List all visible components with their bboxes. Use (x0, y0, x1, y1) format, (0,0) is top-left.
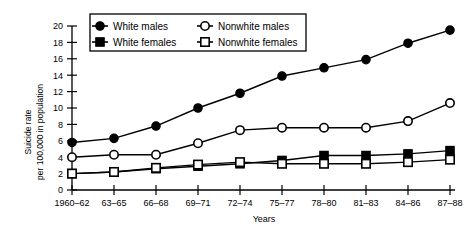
y-tick-label: 6 (58, 136, 63, 146)
x-axis-ticks: 1960–6263–6566–6869–7172–7475–7778–8081–… (54, 185, 462, 208)
legend-label: Nonwhite females (218, 37, 297, 48)
data-point (278, 123, 286, 131)
y-axis-label-line1: Suicide rate (23, 109, 33, 154)
x-tick-label: 75–77 (269, 198, 294, 208)
data-point (68, 169, 76, 177)
legend-label: White females (113, 37, 176, 48)
legend: White malesNonwhite malesWhite femalesNo… (90, 14, 306, 51)
data-point (320, 64, 328, 72)
data-point (404, 117, 412, 125)
data-point (446, 146, 454, 154)
data-point (152, 151, 160, 159)
y-axis-label-line2: per 100,000 in population (35, 84, 45, 180)
suicide-rate-line-chart: Suicide rate per 100,000 in population 0… (0, 0, 472, 243)
legend-marker (96, 38, 104, 46)
data-point (68, 138, 76, 146)
x-axis-title: Years (253, 214, 276, 224)
y-tick-label: 8 (58, 120, 63, 130)
data-point (320, 151, 328, 159)
legend-marker (96, 22, 104, 30)
data-point (110, 134, 118, 142)
series-line (72, 103, 450, 157)
data-point (278, 160, 286, 168)
data-point (362, 160, 370, 168)
data-point (320, 123, 328, 131)
data-point (236, 158, 244, 166)
data-point (68, 153, 76, 161)
x-tick-label: 1960–62 (54, 198, 89, 208)
y-tick-label: 4 (58, 153, 63, 163)
legend-label: Nonwhite males (218, 21, 289, 32)
chart-figure: Suicide rate per 100,000 in population 0… (0, 0, 472, 243)
data-point (110, 168, 118, 176)
data-point (362, 151, 370, 159)
x-tick-label: 66–68 (143, 198, 168, 208)
data-point (194, 104, 202, 112)
data-point (320, 160, 328, 168)
data-point (278, 72, 286, 80)
x-tick-label: 63–65 (101, 198, 126, 208)
y-tick-label: 18 (53, 38, 63, 48)
x-tick-label: 69–71 (185, 198, 210, 208)
legend-marker (201, 38, 209, 46)
y-tick-label: 2 (58, 169, 63, 179)
legend-marker (201, 22, 209, 30)
y-axis-label: Suicide rate per 100,000 in population (23, 84, 45, 180)
data-point (194, 160, 202, 168)
data-point (362, 55, 370, 63)
x-tick-label: 84–86 (395, 198, 420, 208)
data-point (446, 99, 454, 107)
legend-item-white-females[interactable]: White females (92, 37, 176, 48)
data-point (404, 150, 412, 158)
data-point (152, 122, 160, 130)
data-point (446, 155, 454, 163)
data-point (446, 26, 454, 34)
x-tick-label: 78–80 (311, 198, 336, 208)
legend-label: White males (113, 21, 168, 32)
y-tick-label: 14 (53, 71, 63, 81)
data-point (152, 164, 160, 172)
data-point (362, 123, 370, 131)
data-point (110, 151, 118, 159)
y-tick-label: 16 (53, 54, 63, 64)
y-tick-label: 20 (53, 21, 63, 31)
data-point (194, 139, 202, 147)
y-tick-label: 0 (58, 185, 63, 195)
data-point (236, 89, 244, 97)
x-tick-label: 72–74 (227, 198, 252, 208)
data-point (404, 158, 412, 166)
series-nonwhite-males (68, 99, 454, 162)
data-point (404, 39, 412, 47)
x-tick-label: 81–83 (353, 198, 378, 208)
series-nonwhite-females (68, 155, 454, 177)
y-tick-label: 10 (53, 103, 63, 113)
y-tick-label: 12 (53, 87, 63, 97)
data-point (236, 126, 244, 134)
x-tick-label: 87–88 (437, 198, 462, 208)
